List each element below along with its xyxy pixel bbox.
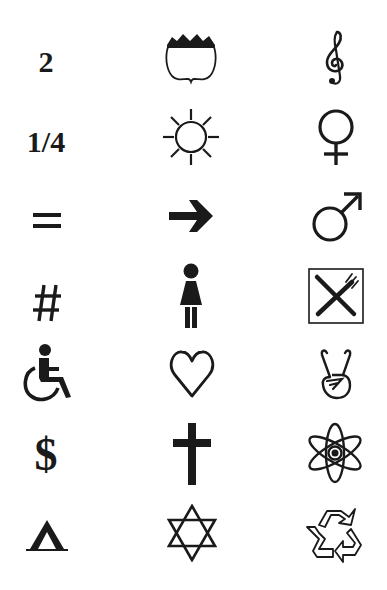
digit-two-label: 2 [39, 47, 54, 77]
digit-two: 2 [16, 40, 76, 84]
woman-restroom-icon [170, 260, 212, 332]
peace-hand-icon [312, 346, 360, 402]
cross-icon [166, 420, 218, 488]
one-quarter-label: 1/4 [27, 127, 65, 157]
female-symbol-icon [312, 106, 360, 168]
us-highway-shield-icon [160, 30, 222, 86]
dollar-sign: $ [18, 425, 74, 485]
heart-outline-icon [164, 346, 220, 402]
one-quarter-fraction: 1/4 [10, 122, 82, 162]
restaurant-knife-fork-icon [306, 266, 366, 326]
sun-icon [160, 106, 222, 168]
tent-campground-icon [20, 512, 74, 558]
recycle-icon [302, 503, 368, 565]
star-of-david-icon [164, 503, 220, 563]
atom-icon [302, 420, 368, 486]
hash-sign [22, 278, 72, 328]
wheelchair-accessible-icon [16, 340, 78, 406]
equals-sign [22, 206, 72, 236]
right-arrow-icon [160, 196, 222, 236]
male-symbol-icon [306, 190, 368, 246]
treble-clef-icon [310, 28, 360, 88]
dollar-label: $ [35, 432, 58, 478]
